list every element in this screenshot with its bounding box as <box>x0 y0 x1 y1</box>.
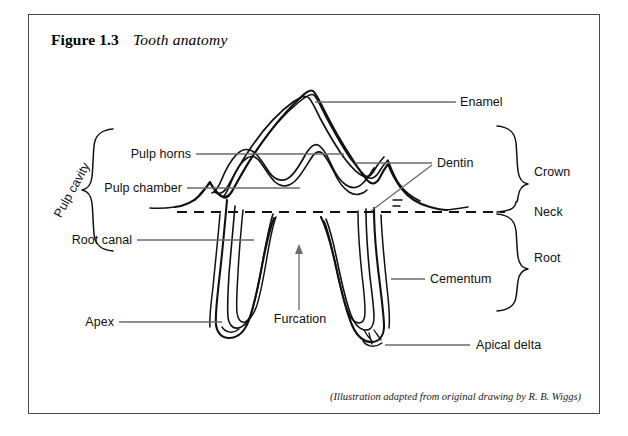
label-root-canal: Root canal <box>72 233 132 247</box>
figure-caption: Tooth anatomy <box>133 31 228 48</box>
figure-frame: Figure 1.3Tooth anatomy (Illustration ad… <box>28 14 600 414</box>
label-enamel: Enamel <box>460 95 503 109</box>
label-neck: Neck <box>534 205 563 219</box>
label-dentin: Dentin <box>437 156 473 170</box>
label-pulp-chamber: Pulp chamber <box>104 181 182 195</box>
figure-title: Figure 1.3Tooth anatomy <box>51 31 227 49</box>
label-root: Root <box>534 251 561 265</box>
label-apical-delta: Apical delta <box>476 338 541 352</box>
label-pulp-horns: Pulp horns <box>131 147 191 161</box>
figure-source-note: (Illustration adapted from original draw… <box>330 391 581 402</box>
figure-number: Figure 1.3 <box>51 31 119 48</box>
label-apex: Apex <box>85 315 114 329</box>
label-furcation: Furcation <box>274 312 327 326</box>
label-cementum: Cementum <box>430 272 492 286</box>
label-crown: Crown <box>534 165 570 179</box>
